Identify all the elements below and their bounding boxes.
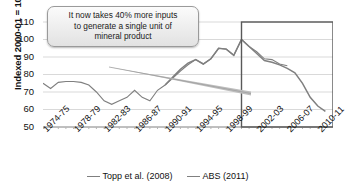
callout-line-1: It now takes 40% more inputs [52, 10, 194, 21]
legend-label-abs: ABS (2011) [203, 171, 249, 181]
callout-line-3: mineral product [52, 31, 194, 42]
legend-item-topp: Topp et al. (2008) [87, 171, 173, 181]
y-tick-50: 50 [14, 122, 34, 131]
y-tick-100: 100 [14, 34, 34, 43]
x-axis-tick-labels: 1974-75 1978-79 1982-83 1986-87 1990-91 … [43, 127, 333, 167]
y-tick-110: 110 [14, 17, 34, 26]
y-tick-70: 70 [14, 87, 34, 96]
legend-item-abs: ABS (2011) [187, 171, 249, 181]
callout-annotation: It now takes 40% more inputs to generate… [47, 6, 199, 47]
series-line-abs [165, 40, 325, 112]
callout-line-2: to generate a single unit of [52, 21, 194, 32]
chart-legend: Topp et al. (2008) ABS (2011) [0, 168, 335, 184]
legend-swatch-abs [187, 176, 200, 177]
legend-swatch-topp [87, 176, 100, 177]
y-tick-90: 90 [14, 52, 34, 61]
y-tick-60: 60 [14, 104, 34, 113]
legend-label-topp: Topp et al. (2008) [103, 171, 173, 181]
y-tick-80: 80 [14, 69, 34, 78]
y-axis-tick-labels: 110 100 90 80 70 60 50 [12, 0, 34, 196]
